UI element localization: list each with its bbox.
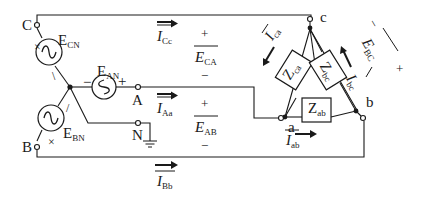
impedance-zab-label: Zab [308,101,326,118]
line-voltage-eab-minus: − [201,139,208,152]
source-ean-label: EAN [97,64,119,81]
terminal-B [35,145,40,150]
terminal-c [308,17,313,22]
terminal-N [136,121,141,126]
source-ean-plus: + [118,74,126,89]
ebc-overbar [383,28,398,51]
terminal-label-B: B [22,140,32,155]
phase-current-iab-label: Iab [286,133,300,150]
line-voltage-eca-label: ECA [195,50,217,67]
node-a [283,115,288,120]
arrow-ibc [343,50,351,67]
source-ecn-plus: × [34,41,41,53]
terminal-label-A: A [132,93,143,108]
ibc-overbar [366,67,372,77]
neutral-node [67,84,72,89]
arrow-ica [265,47,274,62]
terminal-b [361,116,366,121]
terminal-A [136,85,141,90]
source-ebn-plus: × [48,136,55,148]
line-current-icc-label: ICc [157,29,172,46]
line-voltage-ebc-plus: + [396,62,403,75]
line-voltage-eca-plus: + [201,27,208,40]
delta-ab-b [331,111,356,117]
source-ebn-label: EBN [63,126,85,143]
source-ecn-label: ECN [58,33,80,50]
wire-bn-B [37,130,42,141]
terminal-label-C: C [22,18,32,33]
node-c [308,26,313,31]
terminal-label-c: c [320,10,327,25]
ground-symbol [143,141,157,147]
line-current-iaa-label: IAa [157,101,173,118]
line-current-ibb-label: IBb [157,174,173,191]
line-voltage-eca-minus: − [201,69,208,82]
delta-a-ca [285,98,296,117]
wire-cn-neutral [55,66,70,87]
line-voltage-eab-label: EAB [195,120,217,137]
line-voltage-eab-plus: + [201,97,208,110]
terminal-C [35,23,40,28]
terminal-label-N: N [132,128,143,143]
source-ecn-minus: \ [52,70,55,82]
source-ebn-minus: / [66,102,69,114]
source-ean-minus: − [83,75,91,90]
node-b [354,109,359,114]
terminal-label-b: b [366,95,374,110]
wire-c-source [37,28,42,38]
